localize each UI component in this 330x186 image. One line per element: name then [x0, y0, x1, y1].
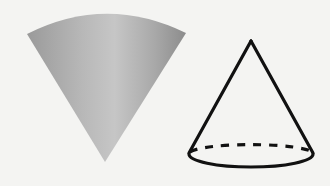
diagram-canvas — [0, 0, 330, 186]
shaded-cone — [27, 14, 186, 162]
cone-base-hidden-arc — [190, 145, 312, 152]
cones-figure — [0, 0, 330, 186]
cone-left-edge — [189, 41, 251, 153]
cone-right-edge — [251, 41, 313, 153]
cone-base-front-arc — [189, 154, 313, 167]
outline-cone — [189, 41, 313, 167]
